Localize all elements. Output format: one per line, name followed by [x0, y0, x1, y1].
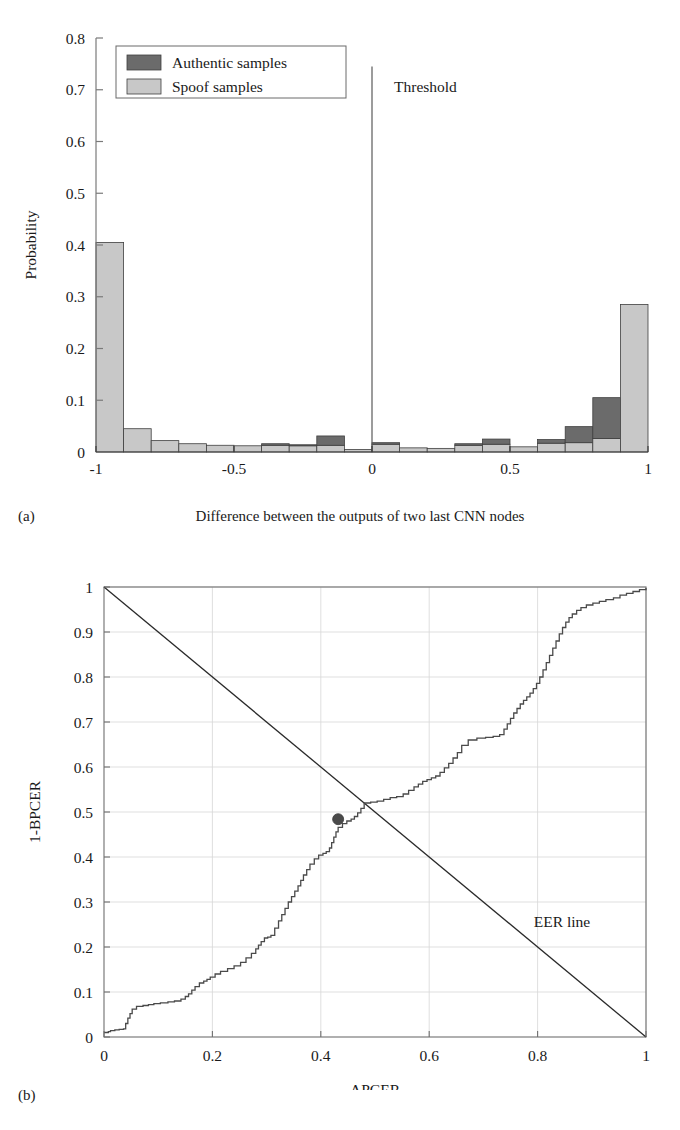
y-tick-label: 0.6: [74, 759, 94, 776]
histogram-bar-authentic: [565, 427, 593, 443]
x-tick-label: -1: [90, 460, 103, 477]
y-tick-label: 0.2: [66, 340, 85, 357]
y-tick-label: 1: [85, 579, 93, 596]
legend-swatch-spoof: [127, 79, 161, 94]
histogram-bar-spoof: [538, 443, 566, 452]
histogram-group: Threshold00.10.20.30.40.50.60.70.8-1-0.5…: [22, 30, 652, 478]
y-tick-label: 0.5: [66, 185, 86, 202]
x-axis-ticks: 00.20.40.60.81: [100, 1031, 650, 1064]
x-tick-label: 1: [642, 1047, 650, 1064]
histogram-bar-authentic: [372, 443, 400, 445]
legend-swatch-authentic: [127, 55, 161, 70]
legend: Authentic samplesSpoof samples: [116, 46, 346, 98]
x-tick-label: 0.5: [500, 460, 520, 477]
legend-label-authentic: Authentic samples: [172, 54, 287, 71]
y-tick-label: 0.6: [66, 133, 86, 150]
histogram-bar-spoof: [151, 441, 179, 452]
histogram-bar-spoof: [262, 445, 290, 452]
histogram-bar-authentic: [482, 439, 510, 444]
eer-point: [333, 814, 344, 825]
det-plot: EER line00.10.20.30.40.50.60.70.80.9100.…: [0, 545, 680, 1090]
histogram-bar-spoof: [96, 242, 124, 452]
caption-a-text: Difference between the outputs of two la…: [0, 508, 680, 525]
histogram-bar-spoof: [620, 305, 648, 452]
x-tick-label: 0.8: [528, 1047, 548, 1064]
y-tick-label: 0: [85, 1029, 93, 1046]
y-tick-label: 0.7: [66, 81, 86, 98]
y-tick-label: 0.5: [74, 804, 94, 821]
y-tick-label: 0.1: [74, 984, 93, 1001]
y-tick-label: 0.4: [66, 237, 86, 254]
histogram-bar-spoof: [510, 447, 538, 452]
histogram-bar-spoof: [289, 446, 317, 452]
y-tick-label: 0.7: [74, 714, 94, 731]
y-axis-title: 1-BPCER: [26, 780, 43, 843]
y-tick-label: 0.8: [66, 30, 86, 47]
caption-b-tag: (b): [18, 1087, 36, 1104]
histogram-bar-spoof: [317, 445, 345, 452]
y-axis-title: Probability: [22, 210, 39, 279]
histogram-bar-spoof: [234, 446, 262, 452]
histogram-bar-authentic: [317, 436, 345, 445]
legend-label-spoof: Spoof samples: [172, 78, 263, 95]
x-tick-label: 0: [368, 460, 376, 477]
x-tick-label: 0.6: [420, 1047, 440, 1064]
threshold-label: Threshold: [394, 78, 457, 95]
histogram-bar-authentic: [593, 398, 621, 439]
histogram-bar-authentic: [455, 444, 483, 446]
x-tick-label: 0.2: [203, 1047, 222, 1064]
histogram-bar-spoof: [455, 445, 483, 452]
histogram-plot: Threshold00.10.20.30.40.50.60.70.8-1-0.5…: [0, 0, 680, 500]
histogram-bar-spoof: [206, 445, 234, 452]
histogram-bar-spoof: [593, 439, 621, 452]
y-tick-label: 0.2: [74, 939, 93, 956]
histogram-bar-spoof: [400, 448, 428, 452]
y-tick-label: 0.9: [74, 624, 94, 641]
det-group: EER line00.10.20.30.40.50.60.70.80.9100.…: [26, 579, 650, 1091]
y-tick-label: 0: [77, 444, 85, 461]
histogram-bar-spoof: [372, 444, 400, 452]
panel-b-det-curve: EER line00.10.20.30.40.50.60.70.80.9100.…: [0, 545, 680, 1130]
y-tick-label: 0.8: [74, 669, 94, 686]
histogram-bar-spoof: [565, 443, 593, 452]
histogram-bar-authentic: [289, 445, 317, 446]
histogram-bar-authentic: [538, 440, 566, 444]
y-tick-label: 0.3: [74, 894, 94, 911]
histogram-bar-spoof: [482, 444, 510, 452]
y-tick-label: 0.4: [74, 849, 94, 866]
x-tick-label: -0.5: [222, 460, 247, 477]
histogram-bar-authentic: [262, 444, 290, 446]
panel-a-histogram: Threshold00.10.20.30.40.50.60.70.8-1-0.5…: [0, 0, 680, 545]
x-tick-label: 1: [644, 460, 652, 477]
histogram-bar-spoof: [179, 444, 207, 452]
figure-page: Threshold00.10.20.30.40.50.60.70.8-1-0.5…: [0, 0, 680, 1130]
eer-line-label: EER line: [534, 913, 591, 930]
x-axis-title: APCER: [350, 1081, 401, 1090]
x-tick-label: 0: [100, 1047, 108, 1064]
y-tick-label: 0.3: [66, 288, 86, 305]
y-tick-label: 0.1: [66, 392, 85, 409]
histogram-bar-spoof: [124, 429, 152, 452]
x-tick-label: 0.4: [311, 1047, 331, 1064]
